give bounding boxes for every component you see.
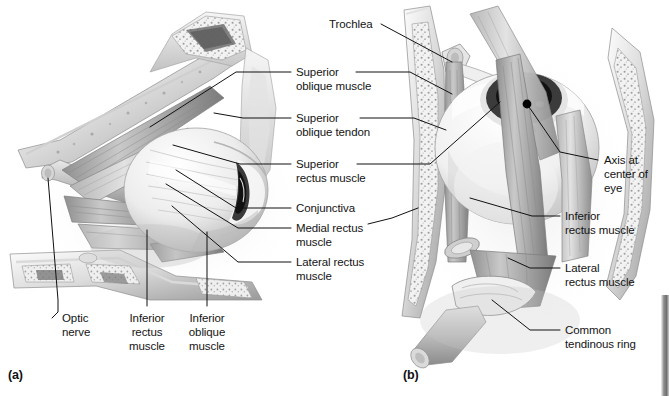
leader-superior-oblique-muscle-left <box>150 72 291 127</box>
label-superior-oblique-muscle-line1: Superior <box>296 65 339 79</box>
leader-superior-oblique-tendon-left <box>214 113 291 118</box>
label-superior-oblique-tendon-line1: Superior <box>296 111 339 125</box>
label-lateral-rectus-muscle-line2: muscle <box>296 269 332 283</box>
label-superior-rectus-muscle-line1: Superior <box>296 157 339 171</box>
panel-a-illustration <box>10 12 310 300</box>
leader-common-tendinous-ring <box>492 300 560 330</box>
leader-axis-center <box>527 104 598 160</box>
label-inferior-rectus-muscle-b-line1: Inferior <box>565 209 600 223</box>
page-edge-artifact <box>661 295 669 396</box>
label-medial-rectus-muscle-line1: Medial rectus <box>296 221 363 235</box>
label-axis-center-of-eye-line1: Axis at <box>604 153 638 167</box>
label-lateral-rectus-muscle-line1: Lateral rectus <box>296 255 364 269</box>
label-inferior-oblique-muscle-a-line2: oblique <box>176 325 238 339</box>
label-axis-center-of-eye-line2: center of <box>604 167 648 181</box>
label-inferior-oblique-muscle-a-line1: Inferior <box>176 311 238 325</box>
label-medial-rectus-muscle-line2: muscle <box>296 235 332 249</box>
label-inferior-rectus-muscle-a-line3: muscle <box>117 339 177 353</box>
leader-trochlea <box>381 24 452 62</box>
leader-superior-rectus-muscle-right <box>357 102 500 164</box>
label-superior-oblique-tendon-line2: oblique tendon <box>296 125 370 139</box>
label-inferior-rectus-muscle-a-line2: rectus <box>117 325 177 339</box>
label-trochlea: Trochlea <box>329 17 373 31</box>
label-optic-nerve-line2: nerve <box>62 325 90 339</box>
label-conjunctiva: Conjunctiva <box>296 201 355 215</box>
leader-lateral-rectus <box>172 206 291 262</box>
panel-letter-b: (b) <box>403 368 418 382</box>
label-common-tendinous-ring-line1: Common <box>565 323 611 337</box>
label-lateral-rectus-muscle-b-line2: rectus muscle <box>565 275 635 289</box>
leader-medial-rectus-right <box>368 208 418 224</box>
leader-superior-rectus-muscle-left <box>173 145 291 164</box>
label-optic-nerve-line1: Optic <box>62 311 88 325</box>
label-inferior-rectus-muscle-b-line2: rectus muscle <box>565 223 635 237</box>
label-common-tendinous-ring-line2: tendinous ring <box>565 337 636 351</box>
axis-center-dot <box>523 100 532 109</box>
label-lateral-rectus-muscle-b-line1: Lateral <box>565 261 599 275</box>
leader-optic-nerve <box>48 178 58 318</box>
leader-conjunctiva <box>176 170 291 208</box>
label-superior-rectus-muscle-line2: rectus muscle <box>296 171 366 185</box>
label-inferior-oblique-muscle-a-line3: muscle <box>176 339 238 353</box>
leader-medial-rectus-left <box>166 184 291 228</box>
label-axis-center-of-eye-line3: eye <box>604 181 622 195</box>
leader-superior-oblique-tendon-right <box>360 118 446 130</box>
panel-letter-a: (a) <box>8 368 23 382</box>
label-superior-oblique-muscle-line2: oblique muscle <box>296 79 371 93</box>
leader-inferior-rectus-b <box>470 198 560 216</box>
anatomy-figure-extrinsic-eye-muscles: Trochlea Superior oblique muscle Superio… <box>0 0 669 396</box>
leader-lateral-rectus-b <box>508 258 560 268</box>
label-inferior-rectus-muscle-a-line1: Inferior <box>117 311 177 325</box>
